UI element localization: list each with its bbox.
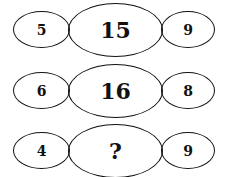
center-value: 16 bbox=[100, 78, 131, 104]
puzzle-row-3: 4 ? 9 bbox=[0, 121, 228, 177]
right-oval: 9 bbox=[161, 11, 215, 48]
right-oval: 8 bbox=[161, 72, 215, 109]
left-value: 6 bbox=[37, 83, 47, 99]
center-value: 15 bbox=[100, 17, 131, 43]
left-oval: 5 bbox=[13, 11, 70, 48]
center-oval: 16 bbox=[68, 64, 163, 118]
left-oval: 4 bbox=[13, 132, 70, 169]
left-oval: 6 bbox=[13, 72, 70, 109]
right-value: 8 bbox=[183, 83, 193, 99]
right-oval: 9 bbox=[161, 132, 215, 169]
puzzle-row-1: 5 15 9 bbox=[0, 0, 228, 58]
right-value: 9 bbox=[183, 22, 193, 38]
center-oval: ? bbox=[68, 124, 163, 177]
right-value: 9 bbox=[183, 143, 193, 159]
puzzle-row-2: 6 16 8 bbox=[0, 61, 228, 119]
left-value: 5 bbox=[37, 22, 47, 38]
center-oval: 15 bbox=[68, 3, 163, 57]
number-oval-puzzle: 5 15 9 6 16 8 4 ? 9 bbox=[0, 0, 228, 177]
unknown-value: ? bbox=[109, 138, 122, 164]
left-value: 4 bbox=[37, 143, 47, 159]
